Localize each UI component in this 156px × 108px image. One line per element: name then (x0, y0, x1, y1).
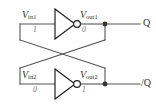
logic-value-vin1: 1 (33, 26, 37, 34)
port-label-q: Q (143, 18, 150, 28)
label-vin2-subscript: in2 (28, 73, 36, 80)
label-vin1: Vin1 (22, 10, 36, 21)
label-vin2: Vin2 (22, 70, 36, 81)
label-vout2: Vout2 (80, 70, 98, 81)
logic-value-vout2: 1 (82, 86, 86, 94)
port-label-qbar: /Q (141, 78, 151, 88)
junction-dot-node1 (103, 22, 108, 27)
inverter2-bubble-icon (74, 81, 81, 88)
inverter1-triangle (55, 9, 75, 39)
inverter1-bubble-icon (74, 21, 81, 28)
label-vout2-subscript: out2 (86, 73, 98, 80)
label-vin1-subscript: in1 (28, 13, 36, 20)
circuit-diagram: Vin1 1 Vout1 0 Q Vin2 0 Vout2 1 /Q (0, 0, 156, 108)
logic-value-vin2: 0 (33, 86, 37, 94)
label-vout1: Vout1 (80, 10, 98, 21)
logic-value-vout1: 0 (82, 26, 86, 34)
inverter2-triangle (55, 69, 75, 99)
label-vout1-subscript: out1 (86, 13, 98, 20)
junction-dot-node2 (103, 82, 108, 87)
